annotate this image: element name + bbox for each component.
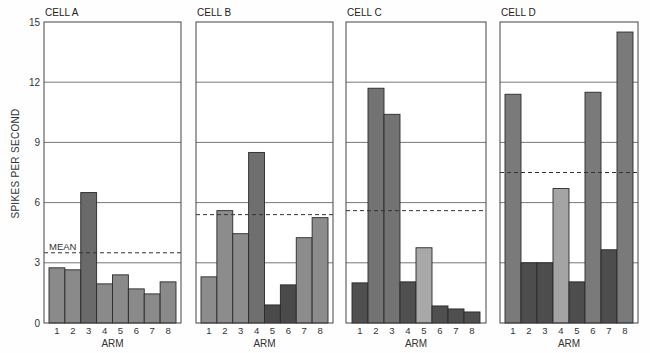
x-tick-label: 6 [134,325,139,336]
bar [368,88,384,323]
bar [537,263,553,323]
x-tick-label: 7 [150,325,155,336]
bar [400,282,416,323]
panel-title: CELL A [45,7,79,18]
bar [49,268,65,323]
x-tick-label: 6 [437,325,442,336]
x-tick-label: 3 [542,325,547,336]
bar [280,285,296,323]
x-tick-label: 2 [70,325,75,336]
mean-label: MEAN [49,241,77,252]
y-tick-label: 6 [34,197,40,208]
bar [113,275,129,323]
panel-title: CELL B [197,7,231,18]
x-tick-label: 1 [510,325,515,336]
x-tick-label: 5 [574,325,579,336]
bar [128,289,144,323]
bar [432,306,448,323]
x-tick-label: 2 [222,325,227,336]
y-tick-label: 12 [29,77,41,88]
y-tick-label: 0 [34,318,40,329]
x-tick-label: 1 [206,325,211,336]
bar [416,248,432,323]
x-tick-label: 4 [558,325,563,336]
x-tick-label: 7 [453,325,458,336]
bar [144,294,160,323]
x-tick-label: 1 [54,325,59,336]
bar [233,234,249,323]
y-tick-label: 15 [29,17,41,28]
x-tick-label: 3 [389,325,394,336]
panel-title: CELL C [347,7,382,18]
bar [384,114,400,323]
bar [448,309,464,323]
panel-cell-c: CELL C12345678ARM [346,7,486,349]
x-tick-label: 5 [118,325,123,336]
bar [617,32,633,323]
x-tick-label: 4 [102,325,107,336]
y-tick-label: 9 [34,137,40,148]
x-tick-label: 1 [357,325,362,336]
bar [553,189,569,323]
x-tick-label: 2 [373,325,378,336]
x-axis-label: ARM [558,338,580,349]
bar [65,270,81,323]
x-axis-label: ARM [253,338,275,349]
x-tick-label: 6 [590,325,595,336]
bar-chart-panels: 03691215CELL A12345678MEANARMCELL B12345… [0,0,650,353]
x-axis-label: ARM [101,338,123,349]
bar [265,305,281,323]
bar [160,282,176,323]
bar [585,92,601,323]
x-tick-label: 5 [270,325,275,336]
x-tick-label: 4 [405,325,410,336]
panel-cell-b: CELL B12345678ARM [196,7,333,349]
x-tick-label: 3 [238,325,243,336]
x-tick-label: 8 [622,325,627,336]
bar [312,218,328,323]
panel-cell-a: CELL A12345678MEANARM [44,7,181,349]
panel-title: CELL D [501,7,536,18]
bar [201,277,217,323]
x-tick-label: 2 [526,325,531,336]
bar [521,263,537,323]
bar [601,250,617,323]
bar [505,94,521,323]
bar [296,238,312,323]
panel-cell-d: CELL D12345678ARM [500,7,638,349]
x-tick-label: 5 [421,325,426,336]
x-tick-label: 7 [302,325,307,336]
bar [352,283,368,323]
bar [569,282,585,323]
bar [81,193,97,323]
bar [97,284,113,323]
bar [464,312,480,323]
x-tick-label: 6 [286,325,291,336]
bar [217,211,233,323]
y-tick-label: 3 [34,257,40,268]
x-tick-label: 8 [469,325,474,336]
x-tick-label: 4 [254,325,259,336]
x-tick-label: 7 [606,325,611,336]
x-tick-label: 8 [317,325,322,336]
x-tick-label: 8 [165,325,170,336]
bar [249,152,265,323]
x-tick-label: 3 [86,325,91,336]
x-axis-label: ARM [405,338,427,349]
